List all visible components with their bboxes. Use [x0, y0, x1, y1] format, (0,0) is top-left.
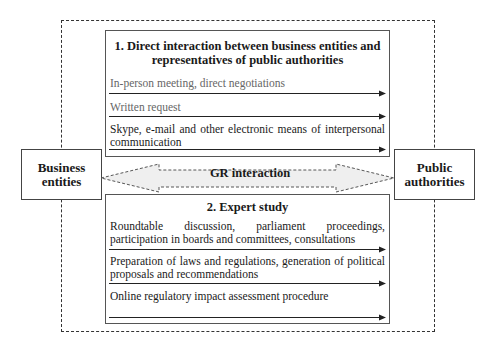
arrow-right-icon [109, 145, 386, 154]
section1-title-line2: representatives of public authorities [106, 53, 389, 67]
arrow-right-icon [109, 279, 386, 288]
public-label-line2: authorities [405, 175, 465, 189]
section1-title: 1. Direct interaction between business e… [106, 39, 389, 67]
public-label-line1: Public [405, 161, 465, 175]
business-label-line1: Business [38, 161, 86, 175]
section2-item-1: Roundtable discussion, parliament procee… [110, 220, 385, 246]
business-entities-box: Business entities [21, 149, 102, 200]
direct-interaction-box: 1. Direct interaction between business e… [105, 30, 390, 157]
section2-item-2: Preparation of laws and regulations, gen… [110, 255, 385, 281]
arrow-right-icon [109, 112, 386, 121]
gr-interaction-label: GR interaction [200, 166, 300, 181]
arrow-right-icon [109, 245, 386, 254]
public-authorities-box: Public authorities [394, 149, 475, 200]
business-label-line2: entities [38, 175, 86, 189]
section2-item-3: Online regulatory impact assessment proc… [110, 290, 385, 303]
section2-title: 2. Expert study [106, 200, 389, 214]
section1-title-line1: 1. Direct interaction between business e… [106, 39, 389, 53]
arrow-right-icon [109, 89, 386, 98]
arrow-right-icon [109, 313, 386, 322]
expert-study-box: 2. Expert study Roundtable discussion, p… [105, 194, 390, 324]
